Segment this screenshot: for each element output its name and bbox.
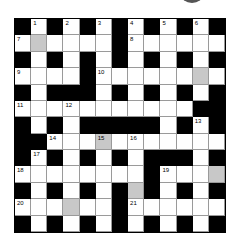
grid-cell[interactable]: [160, 134, 176, 150]
grid-cell[interactable]: 7: [15, 35, 31, 51]
grid-cell[interactable]: [63, 68, 79, 84]
grid-cell[interactable]: 2: [63, 19, 79, 35]
grid-cell[interactable]: [31, 199, 47, 215]
grid-cell[interactable]: [63, 117, 79, 133]
grid-cell[interactable]: [31, 101, 47, 117]
grid-cell[interactable]: [80, 134, 96, 150]
grid-cell[interactable]: 11: [15, 101, 31, 117]
grid-cell[interactable]: 10: [96, 68, 112, 84]
grid-cell[interactable]: [31, 85, 47, 101]
grid-cell[interactable]: [80, 166, 96, 182]
grid-cell[interactable]: [193, 35, 209, 51]
grid-cell[interactable]: [63, 134, 79, 150]
grid-cell[interactable]: [31, 183, 47, 199]
grid-cell[interactable]: [96, 101, 112, 117]
grid-cell[interactable]: [112, 68, 128, 84]
grid-cell[interactable]: 16: [128, 134, 144, 150]
grid-cell[interactable]: [80, 35, 96, 51]
grid-cell[interactable]: 8: [128, 35, 144, 51]
grid-cell[interactable]: [128, 101, 144, 117]
grid-cell[interactable]: [128, 216, 144, 232]
grid-cell[interactable]: [31, 68, 47, 84]
grid-cell[interactable]: [31, 216, 47, 232]
grid-cell[interactable]: [96, 166, 112, 182]
grid-cell[interactable]: [160, 216, 176, 232]
grid-cell[interactable]: [144, 134, 160, 150]
grid-cell[interactable]: [160, 117, 176, 133]
grid-cell[interactable]: [193, 150, 209, 166]
grid-cell[interactable]: 14: [47, 134, 63, 150]
grid-cell[interactable]: [63, 150, 79, 166]
grid-cell[interactable]: [63, 183, 79, 199]
grid-cell[interactable]: [63, 216, 79, 232]
grid-cell[interactable]: [193, 134, 209, 150]
grid-cell[interactable]: 9: [15, 68, 31, 84]
grid-cell[interactable]: 1: [31, 19, 47, 35]
grid-cell[interactable]: 5: [160, 19, 176, 35]
grid-cell[interactable]: [128, 150, 144, 166]
grid-cell[interactable]: [96, 183, 112, 199]
grid-cell[interactable]: [128, 52, 144, 68]
grid-cell[interactable]: [209, 134, 225, 150]
grid-cell[interactable]: [209, 35, 225, 51]
grid-cell[interactable]: [112, 101, 128, 117]
grid-cell[interactable]: 6: [193, 19, 209, 35]
grid-cell[interactable]: [112, 166, 128, 182]
grid-cell[interactable]: [96, 150, 112, 166]
grid-cell[interactable]: [160, 52, 176, 68]
grid-cell[interactable]: [96, 85, 112, 101]
grid-cell[interactable]: [47, 199, 63, 215]
grid-cell[interactable]: [47, 101, 63, 117]
grid-cell[interactable]: [160, 183, 176, 199]
grid-cell[interactable]: [177, 35, 193, 51]
grid-cell[interactable]: [160, 101, 176, 117]
grid-cell[interactable]: 21: [128, 199, 144, 215]
grid-cell[interactable]: [177, 199, 193, 215]
grid-cell[interactable]: [177, 166, 193, 182]
grid-cell[interactable]: 12: [63, 101, 79, 117]
grid-cell[interactable]: [128, 183, 144, 199]
grid-cell[interactable]: [209, 68, 225, 84]
grid-cell[interactable]: 20: [15, 199, 31, 215]
grid-cell[interactable]: [80, 199, 96, 215]
grid-cell[interactable]: [160, 85, 176, 101]
grid-cell[interactable]: [96, 35, 112, 51]
grid-cell[interactable]: [177, 68, 193, 84]
grid-cell[interactable]: [193, 68, 209, 84]
grid-cell[interactable]: [193, 85, 209, 101]
grid-cell[interactable]: [47, 35, 63, 51]
grid-cell[interactable]: [144, 199, 160, 215]
grid-cell[interactable]: [177, 101, 193, 117]
grid-cell[interactable]: 18: [15, 166, 31, 182]
grid-cell[interactable]: [209, 199, 225, 215]
grid-cell[interactable]: 19: [160, 166, 176, 182]
grid-cell[interactable]: [63, 52, 79, 68]
grid-cell[interactable]: [193, 216, 209, 232]
grid-cell[interactable]: [193, 199, 209, 215]
grid-cell[interactable]: [193, 52, 209, 68]
grid-cell[interactable]: [144, 68, 160, 84]
grid-cell[interactable]: 3: [96, 19, 112, 35]
grid-cell[interactable]: [128, 85, 144, 101]
grid-cell[interactable]: [128, 68, 144, 84]
grid-cell[interactable]: [193, 183, 209, 199]
grid-cell[interactable]: [63, 199, 79, 215]
grid-cell[interactable]: [160, 199, 176, 215]
grid-cell[interactable]: [80, 101, 96, 117]
grid-cell[interactable]: [96, 52, 112, 68]
grid-cell[interactable]: 4: [128, 19, 144, 35]
grid-cell[interactable]: [31, 35, 47, 51]
grid-cell[interactable]: [47, 166, 63, 182]
grid-cell[interactable]: [144, 101, 160, 117]
grid-cell[interactable]: 15: [96, 134, 112, 150]
grid-cell[interactable]: [47, 68, 63, 84]
grid-cell[interactable]: [31, 52, 47, 68]
grid-cell[interactable]: [128, 166, 144, 182]
grid-cell[interactable]: [177, 134, 193, 150]
grid-cell[interactable]: [160, 68, 176, 84]
grid-cell[interactable]: [144, 35, 160, 51]
grid-cell[interactable]: [160, 35, 176, 51]
grid-cell[interactable]: [63, 166, 79, 182]
grid-cell[interactable]: [209, 166, 225, 182]
grid-cell[interactable]: [112, 134, 128, 150]
